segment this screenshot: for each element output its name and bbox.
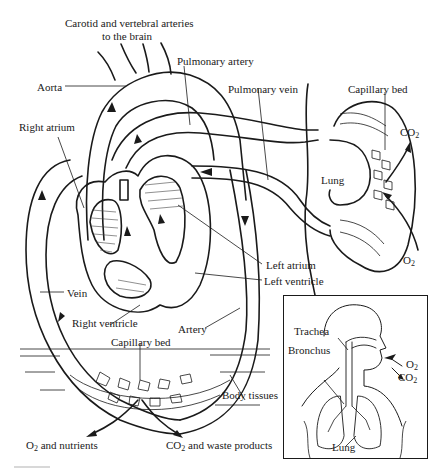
label-aorta: Aorta [37,81,62,93]
label-capillary-bed-lung: Capillary bed [348,83,408,95]
label-carotid-arteries: Carotid and vertebral arteries [65,17,194,29]
label-pulmonary-vein: Pulmonary vein [228,83,298,95]
label-o2-and-nutrients: O2 and nutrients [26,439,98,455]
label-right-atrium: Right atrium [19,121,75,133]
lung-right-panel [305,84,418,300]
inset-label-co2: CO2 [398,371,417,387]
label-co2-and-waste: CO2 and waste products [166,439,272,455]
inset-label-trachea: Trachea [294,325,329,337]
pulmonary-artery [112,113,318,168]
label-pulmonary-artery: Pulmonary artery [177,55,254,67]
label-vein: Vein [67,287,87,299]
label-capillary-bed-body: Capillary bed [111,336,171,348]
label-right-ventricle: Right ventricle [72,317,138,329]
carotid-arteries [98,43,171,80]
label-co2-lung: CO2 [400,126,419,142]
inset-label-lung: Lung [332,441,355,453]
label-o2-lung: O2 [403,254,415,270]
pulmonary-vein [192,166,330,236]
label-artery: Artery [178,323,207,335]
page-mark [14,466,50,468]
heart [77,156,211,312]
label-lung: Lung [321,174,344,186]
inset-label-bronchus: Bronchus [288,344,330,356]
respiratory-inset: Trachea Bronchus O2 CO2 Lung [283,295,428,459]
label-left-atrium: Left atrium [266,259,316,271]
label-left-ventricle: Left ventricle [264,275,324,287]
label-carotid-arteries-line2: to the brain [102,30,152,42]
circulatory-diagram: Carotid and vertebral arteries to the br… [0,0,443,472]
label-body-tissues: Body tissues [222,389,278,401]
